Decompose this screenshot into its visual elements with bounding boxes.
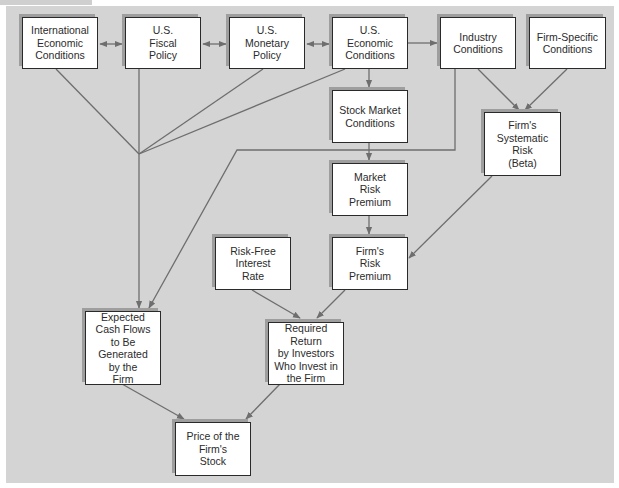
node-firms-systematic-risk-beta: Firm's Systematic Risk (Beta) [484, 112, 561, 176]
node-us-economic-conditions: U.S. Economic Conditions [332, 17, 408, 69]
edge-reqreturn-price [246, 384, 280, 419]
node-us-fiscal-policy: U.S. Fiscal Policy [125, 17, 201, 69]
node-price-of-firms-stock: Price of the Firm's Stock [175, 422, 251, 476]
edge-riskfree-reqreturn [252, 290, 300, 318]
edge-beta-firmrp [409, 176, 492, 258]
edge-industry-beta [478, 69, 519, 110]
node-us-monetary-policy: U.S. Monetary Policy [229, 17, 305, 69]
edge-firmspecific-beta [525, 69, 567, 110]
edge-useconomic-hub [139, 69, 345, 154]
edge-cashflows-price [122, 384, 184, 419]
node-firms-risk-premium: Firm's Risk Premium [332, 237, 408, 290]
node-required-return: Required Return by Investors Who Invest … [268, 322, 344, 385]
edge-monetary-hub [139, 69, 263, 154]
node-stock-market-conditions: Stock Market Conditions [332, 90, 408, 143]
node-expected-cash-flows: Expected Cash Flows to Be Generated by t… [85, 311, 161, 385]
node-international-economic-conditions: International Economic Conditions [22, 17, 98, 69]
edge-industry-cashflows [149, 69, 455, 308]
edges-layer [0, 0, 619, 488]
node-firm-specific-conditions: Firm-Specific Conditions [529, 17, 606, 69]
edge-firmrp-reqreturn [317, 290, 345, 318]
node-risk-free-interest-rate: Risk-Free Interest Rate [215, 237, 291, 290]
node-market-risk-premium: Market Risk Premium [332, 163, 408, 216]
edge-intl-hub [56, 69, 139, 154]
node-industry-conditions: Industry Conditions [440, 17, 516, 69]
